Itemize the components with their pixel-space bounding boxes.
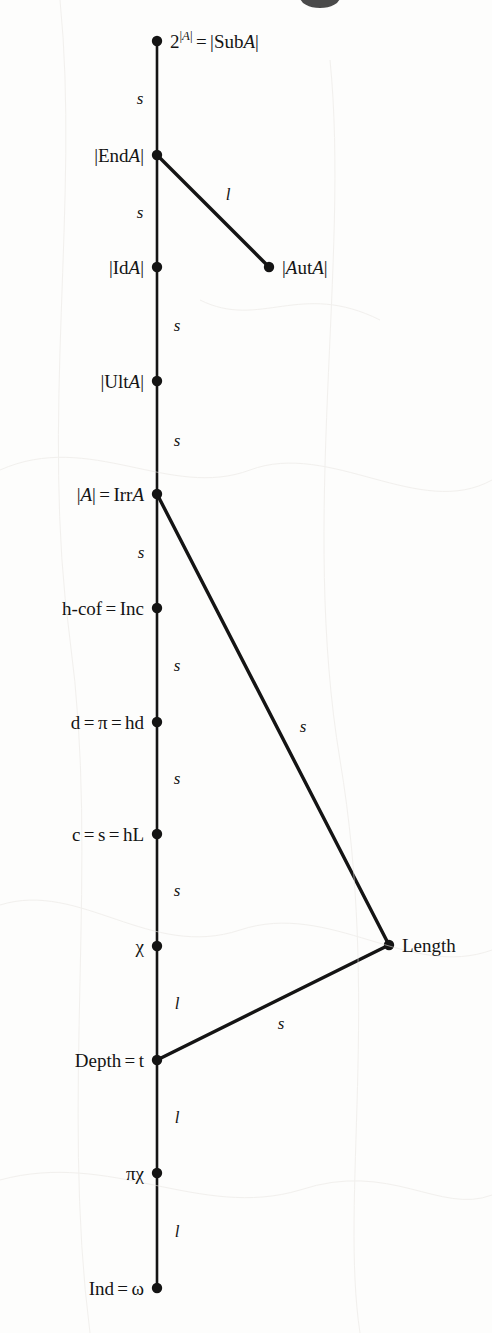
edge-label-end-aut: l — [226, 186, 231, 203]
edge-label-irr-length: s — [300, 718, 307, 735]
edges-layer — [157, 41, 389, 1288]
node-label-end: |EndA| — [94, 146, 144, 165]
edge-label-sub-end: s — [137, 90, 144, 107]
edge-label-depth-pichi: l — [175, 1109, 180, 1126]
nodes-layer — [152, 36, 394, 1293]
edge-irr-length — [157, 494, 389, 945]
edge-label-depth-length: s — [278, 1015, 285, 1032]
edge-label-pichi-ind: l — [175, 1223, 180, 1240]
node-dot-ult[interactable] — [152, 376, 162, 386]
edge-label-hcof-d: s — [174, 657, 181, 674]
node-label-ind: Ind=ω — [89, 1279, 144, 1298]
edge-label-end-id: s — [137, 204, 144, 221]
node-dot-aut[interactable] — [264, 262, 274, 272]
node-label-d: d=π=hd — [71, 713, 144, 732]
node-dot-id[interactable] — [152, 262, 162, 272]
node-dot-depth[interactable] — [152, 1055, 162, 1065]
node-label-c: c=s=hL — [72, 825, 144, 844]
node-label-ult: |UltA| — [100, 372, 144, 391]
node-label-hcof: h-cof=Inc — [62, 599, 144, 618]
node-dot-sub[interactable] — [152, 36, 162, 46]
node-label-id: |IdA| — [109, 258, 144, 277]
edge-label-ult-irr: s — [174, 432, 181, 449]
node-dot-hcof[interactable] — [152, 603, 162, 613]
node-dot-c[interactable] — [152, 829, 162, 839]
node-dot-irr[interactable] — [152, 489, 162, 499]
node-label-pichi: πχ — [126, 1164, 144, 1183]
node-label-irr: |A|=IrrA — [77, 485, 144, 504]
node-dot-ind[interactable] — [152, 1283, 162, 1293]
node-dot-d[interactable] — [152, 717, 162, 727]
edge-label-irr-hcof: s — [138, 544, 145, 561]
node-label-depth: Depth=t — [75, 1051, 144, 1070]
node-dot-length[interactable] — [384, 940, 394, 950]
node-label-length: Length — [402, 936, 456, 955]
node-label-chi: χ — [136, 937, 144, 956]
hasse-diagram-svg — [0, 0, 492, 1333]
figure-canvas: 2|A|=|SubA||EndA||IdA||AutA||UltA||A|=Ir… — [0, 0, 492, 1333]
edge-end-aut — [157, 155, 269, 267]
edge-depth-length — [157, 945, 389, 1060]
edge-label-d-c: s — [174, 770, 181, 787]
edge-label-id-ult: s — [174, 317, 181, 334]
node-label-aut: |AutA| — [282, 258, 328, 277]
node-dot-chi[interactable] — [152, 941, 162, 951]
node-dot-pichi[interactable] — [152, 1168, 162, 1178]
edge-label-c-chi: s — [174, 882, 181, 899]
edge-label-chi-depth: l — [175, 995, 180, 1012]
node-dot-end[interactable] — [152, 150, 162, 160]
node-label-sub: 2|A|=|SubA| — [170, 32, 259, 51]
